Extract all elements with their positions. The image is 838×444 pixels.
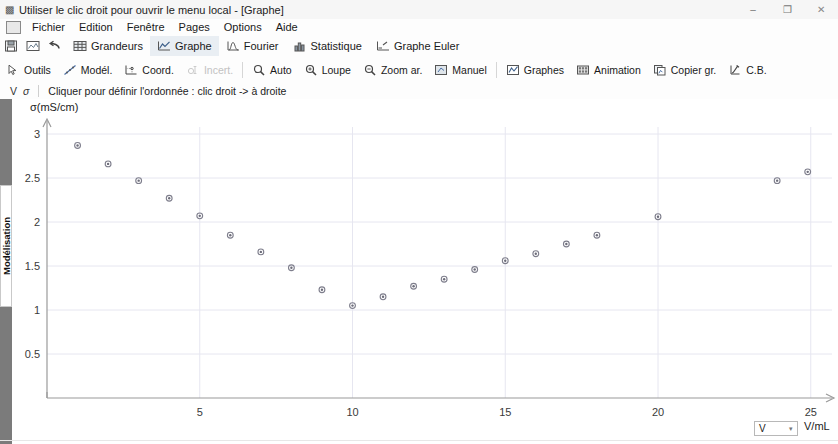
undo-arrow-icon bbox=[48, 40, 62, 52]
tool-coordonnees[interactable]: Coord. bbox=[118, 59, 180, 81]
graph-toolbar: Outils Modél. Coord. bbox=[0, 57, 838, 83]
tab-grandeurs[interactable]: Grandeurs bbox=[66, 36, 150, 56]
tool-coordonnees-label: Coord. bbox=[142, 64, 174, 76]
status-divider bbox=[0, 440, 838, 441]
sidebar-tab-modelisation[interactable]: Modélisation bbox=[0, 185, 12, 307]
svg-text:20: 20 bbox=[652, 406, 664, 418]
app-window-icon: ▩ bbox=[5, 5, 14, 15]
svg-text:0.5: 0.5 bbox=[25, 348, 40, 360]
x-variable-select-value: V bbox=[755, 423, 789, 434]
tab-graphe-label: Graphe bbox=[175, 40, 212, 52]
save-button[interactable] bbox=[0, 36, 22, 56]
coordinates-icon bbox=[124, 64, 138, 76]
tool-loupe[interactable]: Loupe bbox=[298, 59, 357, 81]
tab-graphe-euler-label: Graphe Euler bbox=[394, 40, 459, 52]
tab-fourier-label: Fourier bbox=[244, 40, 279, 52]
hint-message: Cliquer pour définir l'ordonnée : clic d… bbox=[48, 85, 286, 97]
svg-text:25: 25 bbox=[805, 406, 817, 418]
tab-graphe-euler[interactable]: Graphe Euler bbox=[369, 36, 466, 56]
tool-auto-zoom[interactable]: Auto bbox=[246, 59, 298, 81]
magnifier-icon bbox=[304, 64, 318, 76]
sidebar-tab-modelisation-label: Modélisation bbox=[1, 217, 12, 275]
tool-animation[interactable]: Animation bbox=[570, 59, 647, 81]
tab-statistique[interactable]: Statistique bbox=[286, 36, 369, 56]
svg-text:1.5: 1.5 bbox=[25, 260, 40, 272]
tool-loupe-label: Loupe bbox=[322, 64, 351, 76]
copy-graph-icon bbox=[653, 64, 667, 76]
tool-modelisation-label: Modél. bbox=[81, 64, 113, 76]
tool-modelisation[interactable]: Modél. bbox=[57, 59, 119, 81]
tab-statistique-label: Statistique bbox=[311, 40, 362, 52]
magnifier-auto-icon bbox=[252, 64, 266, 76]
toolbar-separator-1 bbox=[242, 62, 243, 78]
x-variable-select[interactable]: V ▾ bbox=[754, 421, 798, 436]
tool-incertitudes-label: Incert. bbox=[204, 64, 233, 76]
axis-hint-bar: V σ Cliquer pour définir l'ordonnée : cl… bbox=[0, 82, 838, 100]
tab-graphe[interactable]: Graphe bbox=[150, 36, 219, 56]
tool-cb[interactable]: C.B. bbox=[722, 59, 772, 81]
minimize-button[interactable]: – bbox=[736, 0, 770, 19]
table-icon bbox=[73, 40, 87, 52]
left-rail-track-bottom bbox=[0, 307, 12, 444]
magnifier-minus-icon bbox=[363, 64, 377, 76]
tab-grandeurs-label: Grandeurs bbox=[91, 40, 143, 52]
svg-text:2.5: 2.5 bbox=[25, 172, 40, 184]
menu-bar: Fichier Edition Fenêtre Pages Options Ai… bbox=[0, 19, 838, 35]
close-button[interactable]: ✕ bbox=[804, 0, 838, 19]
tool-incertitudes: Incert. bbox=[180, 59, 239, 81]
x-axis-label: V/mL bbox=[804, 420, 830, 432]
document-icon bbox=[6, 21, 21, 34]
tool-animation-label: Animation bbox=[594, 64, 641, 76]
tool-zoom-arriere[interactable]: Zoom ar. bbox=[357, 59, 428, 81]
graph-curve-icon bbox=[157, 40, 171, 52]
menu-item-aide[interactable]: Aide bbox=[269, 21, 305, 33]
menu-item-options[interactable]: Options bbox=[217, 21, 269, 33]
film-strip-icon bbox=[576, 64, 590, 76]
tool-outils[interactable]: Outils bbox=[0, 59, 57, 81]
svg-text:10: 10 bbox=[346, 406, 358, 418]
tool-zoom-arriere-label: Zoom ar. bbox=[381, 64, 422, 76]
uncertainty-icon bbox=[186, 64, 200, 76]
maximize-button[interactable]: ❐ bbox=[770, 0, 804, 19]
tool-manuel-label: Manuel bbox=[452, 64, 486, 76]
tool-cb-label: C.B. bbox=[746, 64, 766, 76]
menu-item-pages[interactable]: Pages bbox=[172, 21, 217, 33]
print-preview-button[interactable] bbox=[22, 36, 44, 56]
title-bar: ▩ Utiliser le clic droit pour ouvrir le … bbox=[0, 0, 838, 19]
left-rail: Modélisation bbox=[0, 99, 12, 444]
tool-graphes[interactable]: Graphes bbox=[500, 59, 570, 81]
page-tab-strip: Grandeurs Graphe Fourier bbox=[0, 35, 838, 58]
menu-item-fichier[interactable]: Fichier bbox=[25, 21, 72, 33]
axis-x-name[interactable]: V bbox=[0, 85, 23, 97]
graphs-window-icon bbox=[506, 64, 520, 76]
hint-separator bbox=[38, 85, 39, 97]
manual-zoom-icon bbox=[434, 64, 448, 76]
clipboard-icon bbox=[728, 64, 742, 76]
window-title: Utiliser le clic droit pour ouvrir le me… bbox=[19, 4, 284, 16]
tool-copier-graphe-label: Copier gr. bbox=[671, 64, 717, 76]
toolbar-separator-2 bbox=[496, 62, 497, 78]
tool-manuel[interactable]: Manuel bbox=[428, 59, 492, 81]
model-curve-icon bbox=[63, 64, 77, 76]
tool-auto-zoom-label: Auto bbox=[270, 64, 292, 76]
svg-text:1: 1 bbox=[34, 304, 40, 316]
tab-fourier[interactable]: Fourier bbox=[219, 36, 286, 56]
menu-item-fenetre[interactable]: Fenêtre bbox=[120, 21, 172, 33]
tool-graphes-label: Graphes bbox=[524, 64, 564, 76]
tool-outils-label: Outils bbox=[24, 64, 51, 76]
tool-copier-graphe[interactable]: Copier gr. bbox=[647, 59, 723, 81]
svg-text:15: 15 bbox=[499, 406, 511, 418]
print-preview-icon bbox=[26, 40, 40, 52]
axis-y-name[interactable]: σ bbox=[23, 85, 38, 97]
euler-graph-icon bbox=[376, 40, 390, 52]
menu-item-edition[interactable]: Edition bbox=[72, 21, 120, 33]
scatter-plot[interactable]: 0.511.522.53510152025 bbox=[12, 99, 838, 444]
graph-plot-area[interactable]: σ(mS/cm) 0.511.522.53510152025 bbox=[12, 99, 838, 444]
left-rail-track-top bbox=[0, 99, 12, 185]
undo-button[interactable] bbox=[44, 36, 66, 56]
cursor-arrow-icon bbox=[6, 64, 20, 76]
svg-text:2: 2 bbox=[34, 216, 40, 228]
save-icon bbox=[4, 40, 18, 52]
application-window: ▩ Utiliser le clic droit pour ouvrir le … bbox=[0, 0, 838, 444]
svg-text:3: 3 bbox=[34, 128, 40, 140]
